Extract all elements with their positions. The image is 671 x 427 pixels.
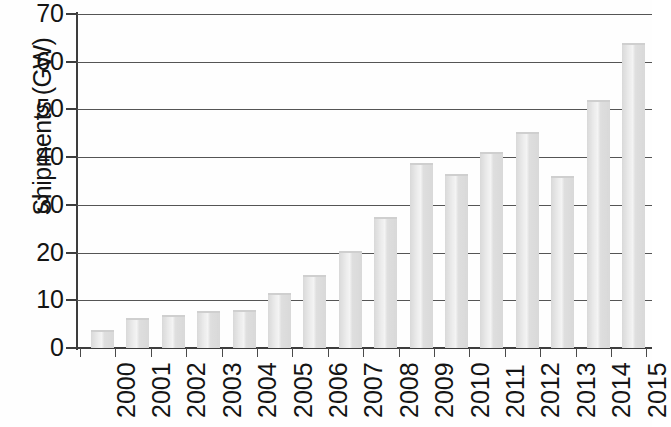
- y-axis-tick-mark: [66, 252, 77, 254]
- x-axis-tick-label: 2000: [113, 346, 139, 418]
- x-axis-tick-label: 2007: [360, 346, 386, 418]
- y-axis-tick-labels: 010203040506070: [12, 0, 64, 360]
- x-axis-tick-mark: [399, 348, 400, 357]
- x-axis-tick-label: 2010: [467, 346, 493, 418]
- bar: [303, 275, 326, 348]
- y-axis-tick-mark: [66, 204, 77, 206]
- y-axis-tick-mark: [66, 347, 77, 349]
- x-axis-tick-mark: [576, 348, 577, 357]
- y-axis-tick-label: 10: [18, 287, 64, 312]
- x-axis-tick-mark: [469, 348, 470, 357]
- y-axis-tick-mark: [66, 108, 77, 110]
- x-axis-tick-mark: [151, 348, 152, 357]
- y-axis-tick-label: 50: [18, 96, 64, 121]
- bar: [91, 330, 114, 348]
- y-axis-tick-mark: [66, 299, 77, 301]
- bar: [233, 310, 256, 348]
- y-axis-tick-label: 30: [18, 192, 64, 217]
- bar: [480, 152, 503, 348]
- x-axis-tick-mark: [505, 348, 506, 357]
- bar: [551, 176, 574, 348]
- x-axis-tick-labels: 2000200120022003200420052006200720082009…: [0, 352, 652, 427]
- y-axis-tick-label: 20: [18, 240, 64, 265]
- x-axis-tick-label: 2002: [183, 346, 209, 418]
- bar: [339, 251, 362, 348]
- x-axis-tick-label: 2012: [537, 346, 563, 418]
- bar: [197, 311, 220, 348]
- bar: [587, 100, 610, 348]
- y-axis-tick-label: 70: [18, 1, 64, 26]
- y-axis-tick-mark: [66, 156, 77, 158]
- x-axis-tick-mark: [434, 348, 435, 357]
- x-axis-tick-label: 2015: [644, 346, 670, 418]
- x-axis-tick-mark: [328, 348, 329, 357]
- bar: [410, 163, 433, 348]
- plot-area: [77, 14, 652, 348]
- x-axis-tick-mark: [115, 348, 116, 357]
- bar: [126, 318, 149, 348]
- bar: [374, 217, 397, 348]
- y-axis-tick-mark: [66, 61, 77, 63]
- bar: [516, 132, 539, 348]
- x-axis-tick-mark: [222, 348, 223, 357]
- bar: [445, 174, 468, 348]
- x-axis-tick-mark: [363, 348, 364, 357]
- gridline: [77, 109, 652, 110]
- y-axis-tick-mark: [66, 13, 77, 15]
- bar: [268, 293, 291, 348]
- gridline: [77, 157, 652, 158]
- x-axis-tick-mark: [646, 348, 647, 357]
- x-axis-tick-mark: [540, 348, 541, 357]
- x-axis-tick-mark: [611, 348, 612, 357]
- x-axis-tick-mark: [80, 348, 81, 357]
- x-axis-tick-mark: [186, 348, 187, 357]
- bar: [162, 315, 185, 348]
- x-axis-tick-label: 2005: [290, 346, 316, 418]
- x-axis-tick-mark: [257, 348, 258, 357]
- gridline: [77, 14, 652, 15]
- gridline: [77, 62, 652, 63]
- x-axis-tick-mark: [292, 348, 293, 357]
- y-axis-tick-label: 40: [18, 144, 64, 169]
- y-axis-tick-label: 60: [18, 49, 64, 74]
- bar: [622, 43, 645, 348]
